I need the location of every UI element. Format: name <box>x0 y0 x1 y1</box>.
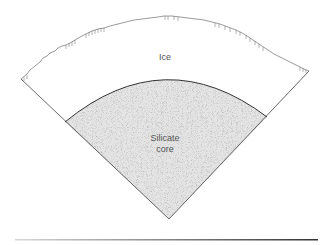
bottom-rule <box>15 239 318 241</box>
ice-surface-ticks <box>24 16 306 81</box>
diagram-canvas <box>0 0 330 245</box>
ice-surface <box>21 16 309 79</box>
silicate-core-label: Silicate core <box>135 133 195 155</box>
ice-label: Ice <box>150 52 180 63</box>
silicate-core-label-line1: Silicate <box>135 133 195 144</box>
silicate-core-label-line2: core <box>135 144 195 155</box>
